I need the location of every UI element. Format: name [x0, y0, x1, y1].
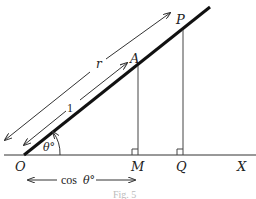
- label-one: 1: [67, 101, 73, 115]
- label-cos-angle: θ°: [83, 174, 95, 187]
- label-cos: cos: [61, 173, 77, 187]
- r-arrow-lower: [5, 72, 90, 140]
- right-angle-m-icon: [132, 149, 138, 155]
- label-x: X: [236, 159, 247, 174]
- figure-caption: Fig. 5: [113, 189, 136, 199]
- label-q: Q: [176, 159, 187, 174]
- label-r: r: [96, 57, 103, 71]
- label-p: P: [175, 12, 185, 27]
- one-arrow-upper: [80, 63, 127, 100]
- trig-diagram: O A P M Q X r 1 θ° cos θ° Fig. 5: [0, 0, 256, 199]
- label-o: O: [15, 159, 26, 174]
- label-a: A: [129, 51, 139, 66]
- right-angle-q-icon: [177, 149, 183, 155]
- ray-op: [24, 7, 210, 155]
- label-theta: θ°: [43, 141, 55, 154]
- label-m: M: [130, 159, 145, 174]
